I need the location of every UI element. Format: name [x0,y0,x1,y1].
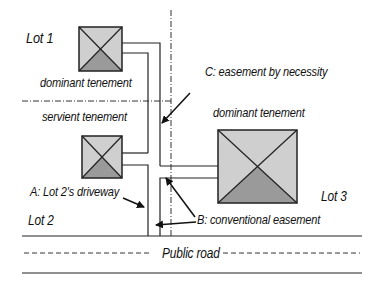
label-lot3: Lot 3 [321,188,347,204]
arrow-easement-a [123,198,144,207]
label-lot2: Lot 2 [28,212,54,228]
easement-a-path [122,153,148,236]
lot1-house-icon [79,27,122,71]
label-public-road: Public road [162,245,220,261]
lot3-house-icon [218,130,297,203]
arrow-easement-c [162,93,190,123]
label-dominant-tenement-lot3: dominant tenement [213,105,305,120]
arrow-easement-b-left [156,222,196,225]
label-lot1: Lot 1 [26,29,54,46]
lot2-house-icon [82,136,122,178]
label-dominant-tenement-lot1: dominant tenement [40,75,132,90]
easement-c-path [122,43,160,166]
label-easement-c: C: easement by necessity [205,64,327,79]
label-easement-a: A: Lot 2's driveway [30,184,119,199]
arrow-easement-b-up [166,178,195,217]
label-servient-tenement: servient tenement [42,109,127,124]
label-easement-b: B: conventional easement [197,212,320,227]
